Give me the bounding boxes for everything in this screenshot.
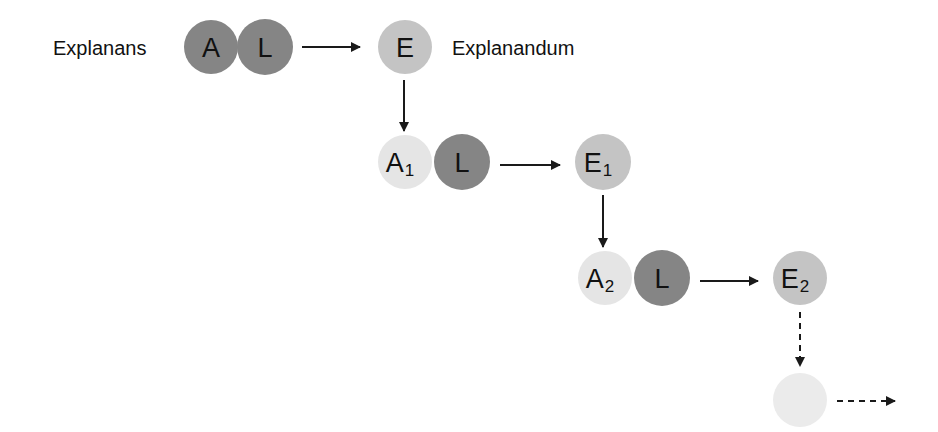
node-A1: A1 bbox=[378, 135, 432, 189]
node-E: E bbox=[378, 20, 432, 74]
explanans-label: Explanans bbox=[53, 37, 146, 59]
svg-text:A: A bbox=[202, 33, 220, 63]
svg-text:L: L bbox=[454, 148, 469, 178]
explanandum-label: Explanandum bbox=[452, 37, 574, 59]
node-E1: E1 bbox=[575, 134, 631, 190]
svg-text:L: L bbox=[654, 264, 669, 294]
svg-text:L: L bbox=[257, 33, 272, 63]
node-A: A bbox=[184, 20, 238, 74]
node-E2: E2 bbox=[773, 251, 827, 305]
node-A2: A2 bbox=[578, 251, 632, 305]
node-L2: L bbox=[634, 250, 690, 306]
svg-text:E: E bbox=[396, 33, 414, 63]
node-L1: L bbox=[434, 134, 490, 190]
explanation-chain-diagram: Explanans Explanandum A L E A1 L E1 A2 L bbox=[0, 0, 938, 432]
node-L: L bbox=[237, 19, 293, 75]
node-next-empty bbox=[773, 373, 827, 427]
